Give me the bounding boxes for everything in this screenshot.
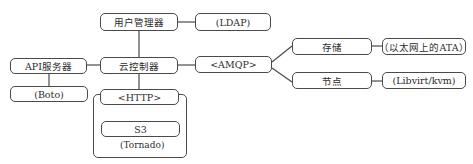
boto-node: (Boto)	[10, 86, 88, 102]
amqp-label: <AMQP>	[210, 59, 257, 70]
http-node: <HTTP>	[100, 89, 179, 105]
tornado-label: (Tornado)	[120, 140, 164, 150]
ldap-label: (LDAP)	[216, 17, 251, 28]
http-label: <HTTP>	[118, 92, 161, 103]
ata-over-ethernet-label: （以太网上的ATA）	[379, 40, 468, 54]
compute-node-label: 节点	[322, 74, 342, 88]
libvirt-kvm-node: (Libvirt/kvm)	[382, 72, 466, 89]
libvirt-kvm-label: (Libvirt/kvm)	[393, 75, 456, 86]
user-manager-label: 用户管理器	[114, 15, 164, 29]
user-manager-node: 用户管理器	[100, 13, 178, 31]
api-server-label: API服务器	[25, 59, 72, 73]
cloud-controller-label: 云控制器	[119, 59, 159, 73]
amqp-node: <AMQP>	[195, 56, 272, 73]
compute-node: 节点	[292, 72, 372, 89]
cloud-controller-node: 云控制器	[100, 57, 178, 74]
s3-label: S3	[134, 124, 147, 135]
s3-node: S3	[101, 121, 180, 137]
boto-label: (Boto)	[34, 89, 64, 100]
api-server-node: API服务器	[10, 58, 87, 74]
ata-over-ethernet-node: （以太网上的ATA）	[382, 38, 466, 55]
ldap-node: (LDAP)	[195, 13, 271, 31]
storage-label: 存储	[322, 40, 342, 54]
storage-node: 存储	[292, 38, 372, 55]
